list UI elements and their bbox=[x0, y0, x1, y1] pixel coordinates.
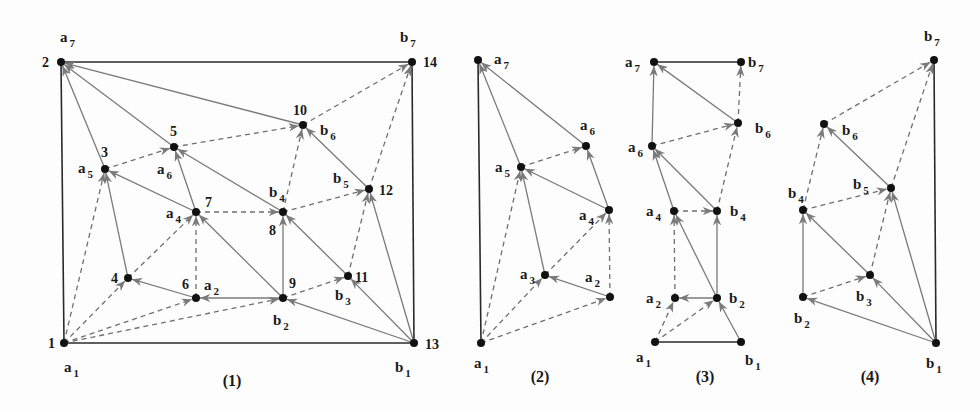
vertex-label: b4 bbox=[788, 185, 804, 205]
vertex-label: a5 bbox=[495, 159, 511, 179]
dashed-arrow-edge bbox=[521, 147, 582, 167]
vertex-dot bbox=[279, 208, 287, 216]
vertex-dot bbox=[279, 294, 287, 302]
vertex-number: 12 bbox=[379, 183, 393, 198]
vertex-dot bbox=[408, 58, 416, 66]
vertex-dot bbox=[799, 206, 807, 214]
diagram-panel-4: b1b2b3b4b5b6b7(4) bbox=[788, 28, 942, 386]
diagram-panels: 1a12a73a545a66a27a48b49b210b611b312b513b… bbox=[42, 28, 942, 390]
vertex-label: b1 bbox=[745, 352, 761, 372]
vertex-dot bbox=[651, 338, 659, 346]
vertex-number: 11 bbox=[355, 270, 368, 285]
vertex-dot bbox=[60, 339, 68, 347]
dashed-arrow-edge bbox=[369, 66, 411, 189]
vertex-dot bbox=[410, 339, 418, 347]
vertex-dot bbox=[170, 143, 178, 151]
solid-arrow-edge bbox=[653, 150, 674, 211]
dashed-arrow-edge bbox=[481, 278, 542, 343]
vertex-label: a4 bbox=[646, 203, 662, 223]
panel-caption: (3) bbox=[696, 368, 715, 386]
vertex-dot bbox=[670, 207, 678, 215]
solid-arrow-edge bbox=[652, 66, 654, 146]
vertex-dot bbox=[474, 56, 482, 64]
diagram-panel-2: a1a2a3a4a5a6a7(2) bbox=[474, 51, 614, 386]
vertex-label: a5 bbox=[78, 160, 94, 180]
vertex-number: 6 bbox=[182, 277, 189, 292]
dashed-arrow-edge bbox=[64, 281, 125, 343]
vertex-number: 3 bbox=[101, 145, 108, 160]
vertex-label: b6 bbox=[320, 122, 336, 142]
vertex-number: 8 bbox=[269, 223, 276, 238]
vertex-dot bbox=[517, 163, 525, 171]
vertex-dot bbox=[477, 339, 485, 347]
vertex-dot bbox=[799, 293, 807, 301]
dashed-arrow-edge bbox=[738, 66, 741, 123]
vertex-dot bbox=[541, 271, 549, 279]
vertex-dot bbox=[648, 142, 656, 150]
vertex-label: a4 bbox=[166, 205, 182, 225]
diagram-panel-1: 1a12a73a545a66a27a48b49b210b611b312b513b… bbox=[42, 29, 439, 390]
vertex-label: b3 bbox=[856, 288, 872, 308]
dashed-arrow-edge bbox=[717, 127, 737, 211]
dashed-arrow-edge bbox=[824, 62, 931, 124]
solid-arrow-edge bbox=[65, 63, 303, 125]
vertex-dot bbox=[713, 294, 721, 302]
vertex-number: 9 bbox=[289, 276, 296, 291]
vertex-label: a1 bbox=[64, 359, 79, 379]
dashed-arrow-edge bbox=[652, 124, 734, 146]
vertex-dot bbox=[57, 58, 65, 66]
vertex-label: b5 bbox=[853, 176, 869, 196]
vertex-label: a7 bbox=[494, 51, 510, 71]
vertex-dot bbox=[650, 58, 658, 66]
vertex-label: b3 bbox=[335, 287, 351, 307]
vertex-label: b2 bbox=[273, 312, 289, 332]
dashed-arrow-edge bbox=[283, 129, 302, 212]
vertex-label: a6 bbox=[580, 117, 596, 137]
vertex-label: b4 bbox=[269, 184, 285, 204]
dashed-arrow-edge bbox=[870, 192, 890, 275]
vertex-dot bbox=[101, 165, 109, 173]
solid-arrow-edge bbox=[109, 171, 196, 212]
panel-caption: (2) bbox=[531, 368, 550, 386]
frame-edge bbox=[934, 60, 936, 343]
dashed-arrow-edge bbox=[545, 213, 606, 275]
vertex-number: 2 bbox=[42, 55, 49, 70]
vertex-dot bbox=[820, 120, 828, 128]
solid-arrow-edge bbox=[676, 215, 717, 298]
vertex-label: a1 bbox=[474, 355, 489, 375]
vertex-number: 13 bbox=[425, 337, 439, 352]
solid-arrow-edge bbox=[286, 215, 348, 276]
graph-diagram-figure: 1a12a73a545a66a27a48b49b210b611b312b513b… bbox=[0, 0, 980, 411]
dashed-arrow-edge bbox=[674, 215, 675, 298]
vertex-label: a2 bbox=[204, 277, 220, 297]
vertex-dot bbox=[192, 208, 200, 216]
vertex-label: a7 bbox=[625, 54, 641, 74]
vertex-label: b7 bbox=[924, 28, 940, 48]
solid-arrow-edge bbox=[719, 302, 741, 342]
vertex-label: b6 bbox=[842, 122, 858, 142]
dashed-arrow-edge bbox=[481, 171, 520, 343]
vertex-dot bbox=[866, 271, 874, 279]
dashed-arrow-edge bbox=[481, 298, 606, 343]
vertex-dot bbox=[192, 294, 200, 302]
vertex-label: b6 bbox=[755, 120, 771, 140]
vertex-label: b7 bbox=[748, 54, 764, 74]
frame-edge bbox=[412, 62, 414, 343]
solid-arrow-edge bbox=[549, 276, 610, 297]
vertex-label: a2 bbox=[646, 290, 662, 310]
panel-caption: (1) bbox=[223, 372, 242, 390]
solid-arrow-edge bbox=[481, 62, 586, 146]
vertex-dot bbox=[737, 58, 745, 66]
dashed-arrow-edge bbox=[803, 189, 887, 210]
dashed-arrow-edge bbox=[891, 64, 933, 188]
dashed-arrow-edge bbox=[128, 215, 193, 278]
vertex-dot bbox=[930, 56, 938, 64]
vertex-dot bbox=[887, 184, 895, 192]
solid-arrow-edge bbox=[175, 151, 196, 212]
vertex-label: a2 bbox=[585, 269, 601, 289]
frame-edge bbox=[478, 60, 481, 343]
dashed-arrow-edge bbox=[174, 126, 299, 147]
vertex-label: b2 bbox=[794, 310, 810, 330]
dashed-arrow-edge bbox=[348, 193, 368, 276]
dashed-arrow-edge bbox=[283, 190, 365, 212]
